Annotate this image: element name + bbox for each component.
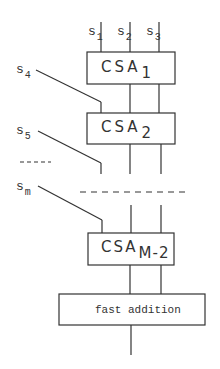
input-label-s5: s5 <box>16 124 31 137</box>
input-label-s1: s1 <box>88 25 103 38</box>
csa2-label: CSA2 <box>101 120 152 135</box>
input-label-s4: s4 <box>16 63 31 76</box>
fast-addition-label: fast addition <box>95 305 181 316</box>
csa1-label: CSA1 <box>101 60 152 75</box>
csa-m2-label: CSAM-2 <box>101 240 169 255</box>
csa-tree-diagram: s1 s2 s3 s4 s5 sm CSA1 CSA2 CSAM-2 fast … <box>0 0 220 369</box>
input-label-s3: s3 <box>146 25 161 38</box>
input-label-sm: sm <box>16 180 31 193</box>
input-label-s2: s2 <box>117 25 132 38</box>
